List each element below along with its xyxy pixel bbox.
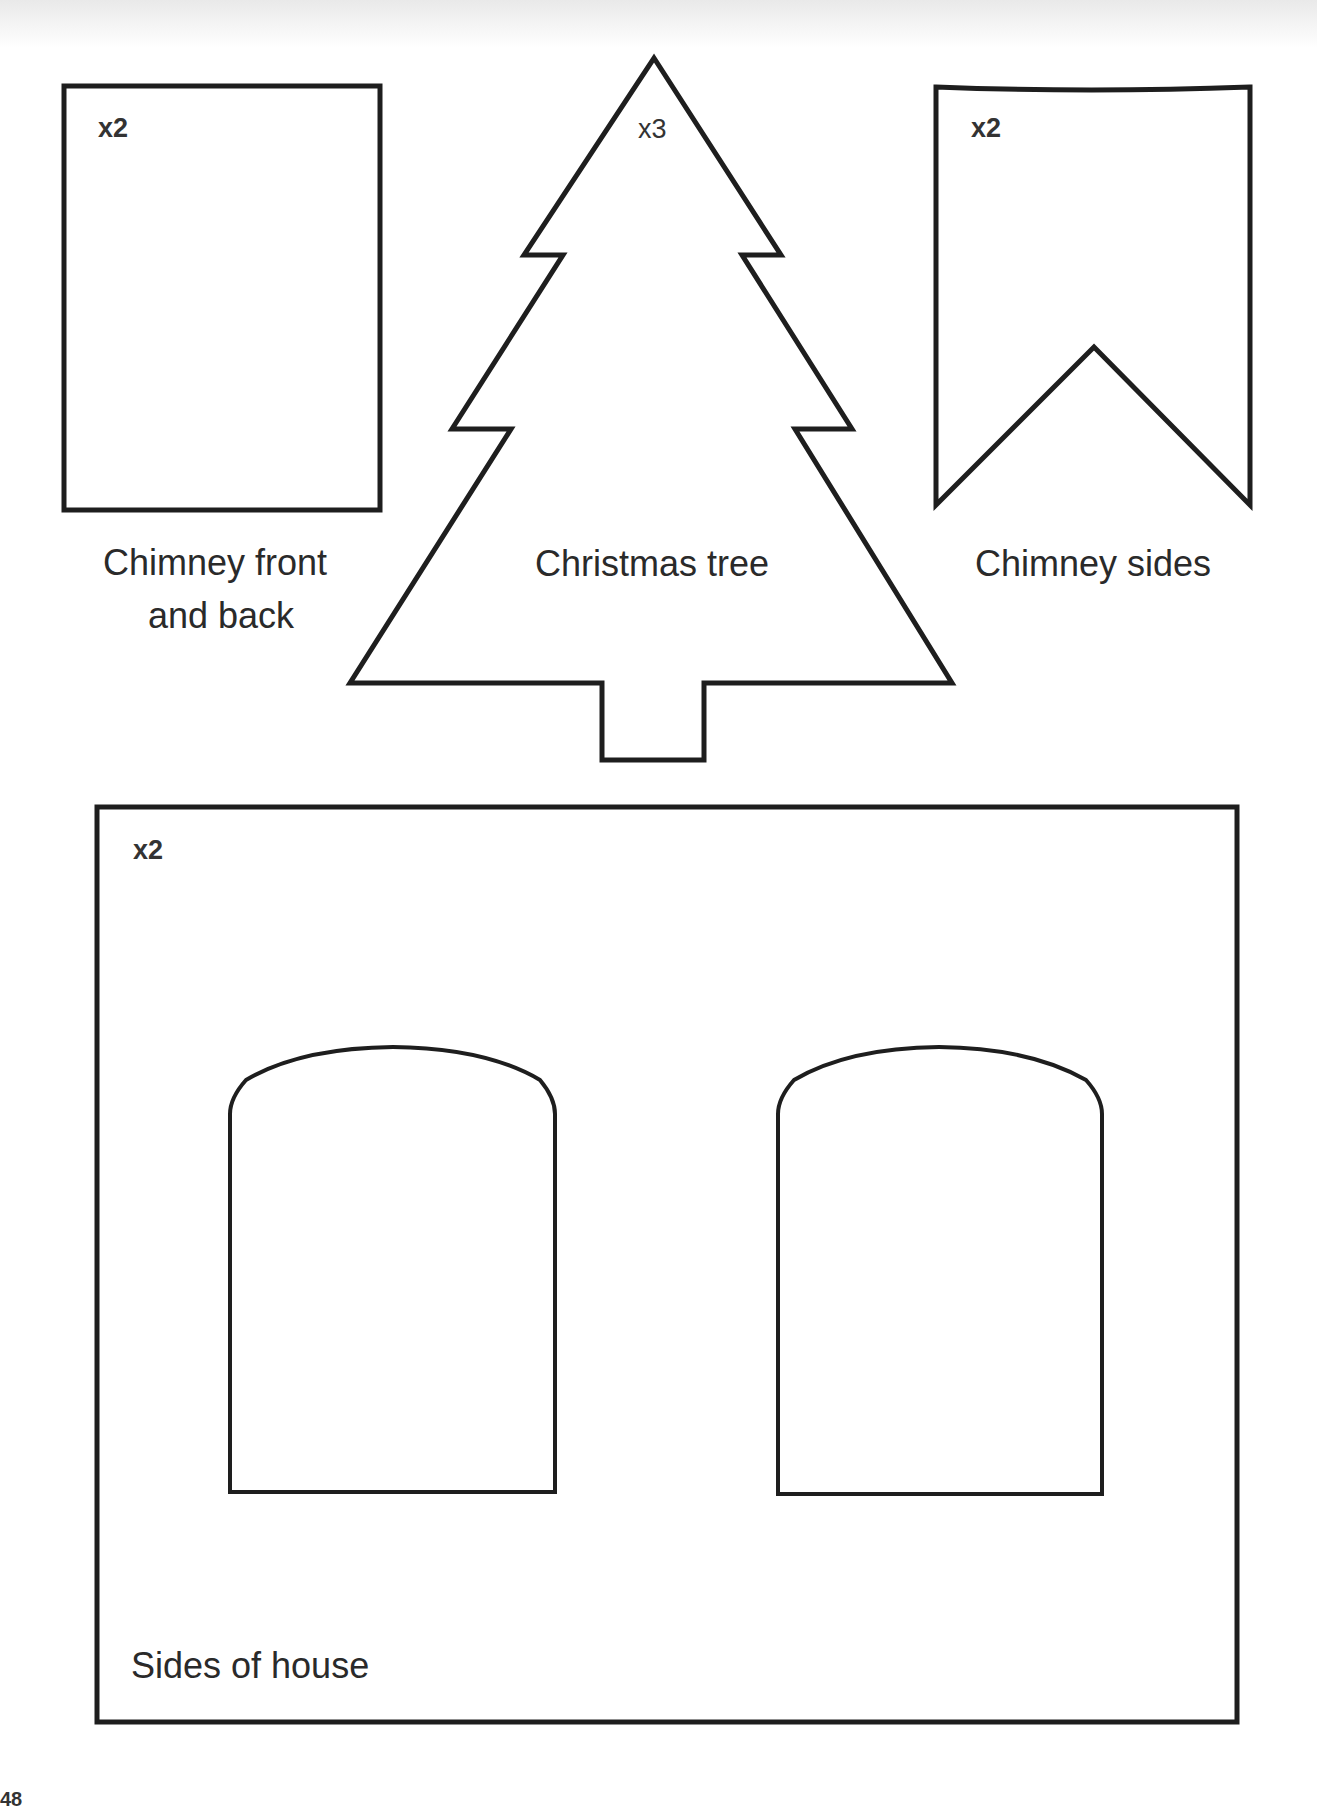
chimney-front-back-outline [64, 86, 380, 510]
chimney-front-back-label-line2: and back [148, 590, 294, 642]
window-right-outline [778, 1047, 1102, 1494]
chimney-sides-label: Chimney sides [975, 538, 1211, 590]
sides-of-house-outline [97, 807, 1237, 1722]
chimney-sides-outline [936, 87, 1250, 505]
chimney-front-back-label-line1: Chimney front [103, 537, 327, 589]
chimney-sides-quantity: x2 [971, 113, 1001, 144]
chimney-front-back-quantity: x2 [98, 113, 128, 144]
christmas-tree-outline [350, 58, 952, 760]
sides-of-house-quantity: x2 [133, 835, 163, 866]
christmas-tree-label: Christmas tree [535, 538, 769, 590]
sides-of-house-label: Sides of house [131, 1640, 369, 1692]
window-left-outline [230, 1047, 555, 1492]
page-number: 48 [0, 1788, 22, 1810]
christmas-tree-quantity: x3 [638, 114, 667, 145]
